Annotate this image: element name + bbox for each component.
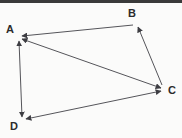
node-label-d: D [10, 121, 18, 132]
edges-group [19, 25, 162, 119]
node-label-b: B [128, 8, 136, 19]
graph-svg [0, 0, 182, 138]
node-label-a: A [6, 24, 14, 35]
edge-d-c [26, 91, 161, 119]
graph-diagram-canvas: ABCD [0, 0, 182, 138]
node-label-c: C [168, 85, 176, 96]
edge-b-a [22, 25, 133, 36]
edge-a-c [22, 39, 161, 88]
edge-c-b [138, 27, 162, 85]
edge-a-d [19, 41, 22, 117]
